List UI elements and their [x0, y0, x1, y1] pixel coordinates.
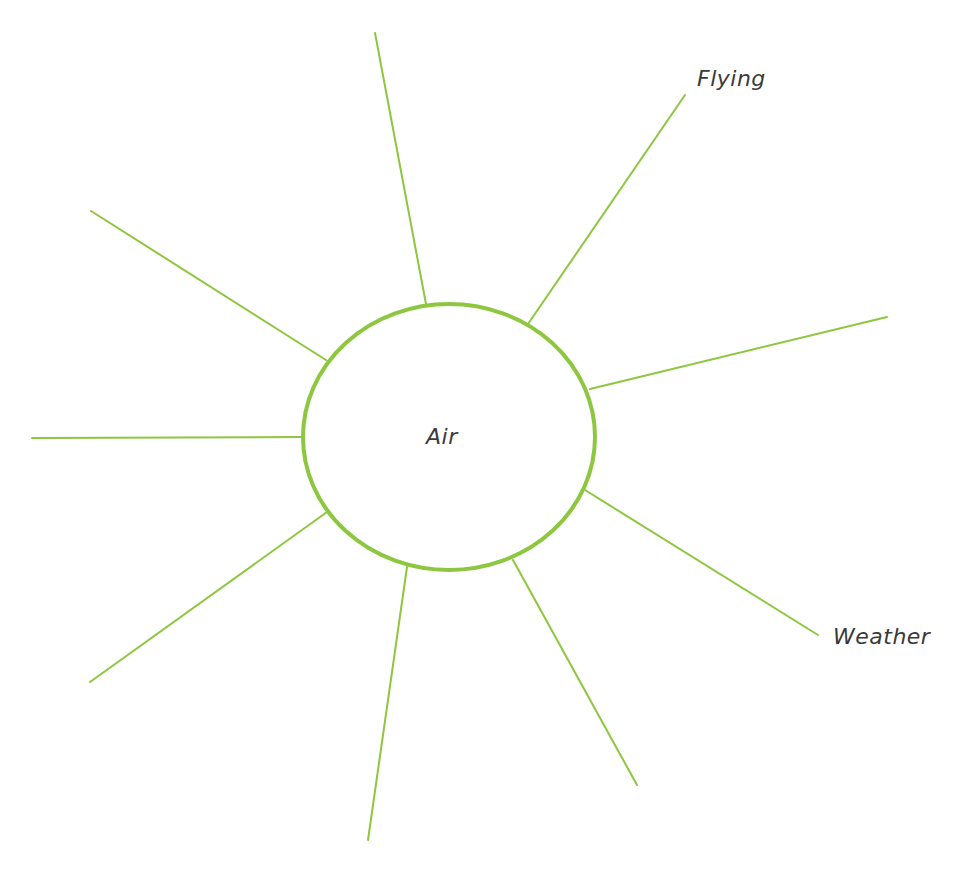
spoke-left	[32, 437, 303, 438]
spoke-label-weather: Weather	[833, 624, 930, 649]
spoke-bottom-right	[513, 560, 637, 785]
spoke-bottom	[368, 567, 407, 840]
center-label: Air	[426, 424, 458, 449]
spokes-group	[32, 33, 887, 840]
spider-diagram-canvas: Air Flying Weather	[0, 0, 967, 870]
spoke-lower-left	[90, 512, 327, 682]
spider-diagram-graphic	[0, 0, 967, 870]
spoke-label-flying: Flying	[697, 66, 766, 91]
spoke-right	[590, 317, 887, 389]
spoke-upper-left	[91, 211, 326, 360]
spoke-top	[375, 33, 426, 304]
spoke-lower-right	[585, 490, 818, 635]
spoke-top-right	[528, 95, 685, 324]
